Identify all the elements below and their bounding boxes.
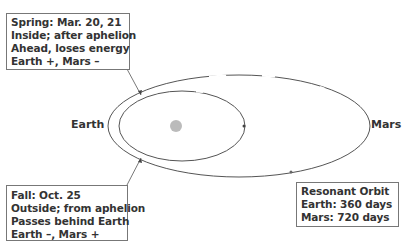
fall-line-1: Fall: Oct. 25 [11, 189, 123, 202]
orbit-diagram: Spring: Mar. 20, 21 Inside; after apheli… [0, 0, 409, 245]
spring-line-3: Ahead, loses energy [11, 42, 125, 55]
fall-line-3: Passes behind Earth [11, 215, 123, 228]
resonant-line-1: Resonant Orbit [301, 185, 394, 198]
resonant-orbit-path [108, 75, 370, 177]
fall-callout: Fall: Oct. 25 Outside; from aphelion Pas… [6, 185, 128, 241]
earth-label: Earth [71, 118, 104, 131]
spring-line-1: Spring: Mar. 20, 21 [11, 16, 125, 29]
resonant-line-2: Earth: 360 days [301, 198, 394, 211]
mars-label: Mars [371, 118, 401, 131]
resonant-orbit-callout: Resonant Orbit Earth: 360 days Mars: 720… [296, 182, 399, 227]
sun-icon [170, 120, 182, 132]
spring-line-2: Inside; after aphelion [11, 29, 125, 42]
spring-line-4: Earth +, Mars – [11, 55, 125, 68]
fall-line-4: Earth –, Mars + [11, 228, 123, 241]
resonant-line-3: Mars: 720 days [301, 211, 394, 224]
spring-callout: Spring: Mar. 20, 21 Inside; after apheli… [6, 13, 130, 70]
fall-line-2: Outside; from aphelion [11, 202, 123, 215]
resonant-orbit-marker [290, 171, 293, 174]
earth-orbit-marker [243, 125, 246, 128]
orbit-gaps [152, 76, 325, 93]
